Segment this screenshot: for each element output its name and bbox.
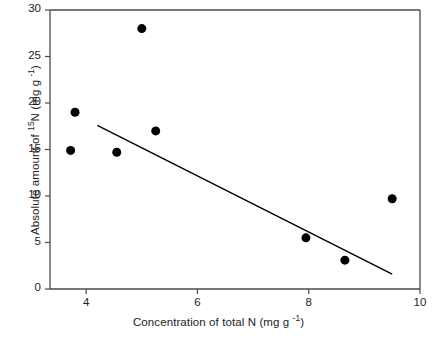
x-tick-label: 6	[177, 296, 217, 308]
y-axis-label-unit-superscript: -1	[27, 69, 36, 77]
trendline	[97, 125, 392, 274]
y-axis-label-tail: )	[29, 65, 41, 69]
x-tick-label: 10	[400, 296, 437, 308]
data-point	[340, 256, 349, 265]
data-point	[71, 108, 80, 117]
data-point	[66, 146, 75, 155]
x-axis-label-main: Concentration of total N (mg g	[133, 316, 293, 328]
y-axis-label: Absolute amount of 15N (mg g -1)	[29, 65, 41, 235]
axis-ticks-group	[45, 10, 420, 294]
plot-canvas	[0, 0, 437, 339]
y-axis-label-mid: N (mg g	[29, 77, 41, 122]
x-tick-label: 8	[289, 296, 329, 308]
scatter-chart-figure: 05101520253046810 Concentration of total…	[0, 0, 437, 339]
data-point	[151, 126, 160, 135]
x-axis-label: Concentration of total N (mg g -1)	[0, 316, 437, 328]
y-axis-label-pre: Absolute amount of	[29, 131, 41, 235]
x-tick-label: 4	[66, 296, 106, 308]
data-point	[301, 233, 310, 242]
axes-group	[50, 10, 420, 289]
trendline-segment	[97, 125, 392, 274]
data-point	[388, 194, 397, 203]
data-point	[137, 24, 146, 33]
data-points-group	[66, 24, 397, 265]
y-axis-label-isotope-superscript: 15	[27, 121, 36, 130]
data-point	[112, 148, 121, 157]
x-axis-label-tail: )	[300, 316, 304, 328]
y-axis-label-wrapper: Absolute amount of 15N (mg g -1)	[25, 10, 45, 290]
